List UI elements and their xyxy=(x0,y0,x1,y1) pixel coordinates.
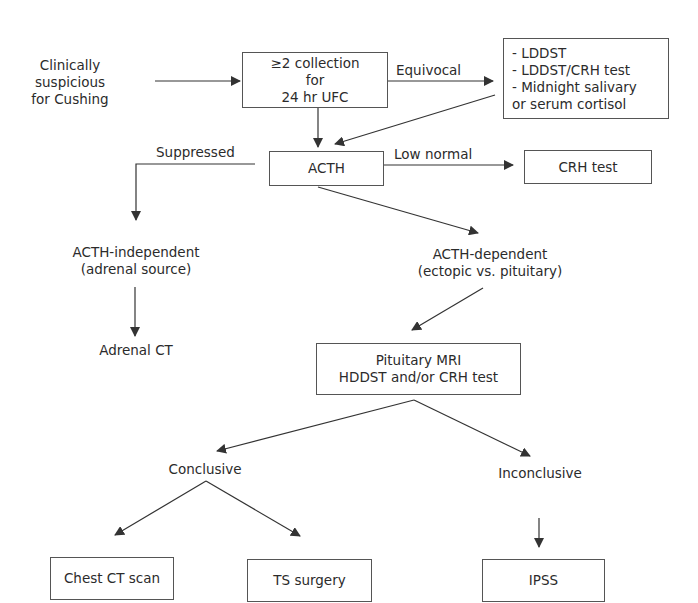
pituitary-line-1: Pituitary MRI xyxy=(376,352,462,369)
chest-ct-label: Chest CT scan xyxy=(64,570,160,587)
start-line-1: Clinically xyxy=(40,57,100,74)
pituitary-mri-box: Pituitary MRI HDDST and/or CRH test xyxy=(316,343,521,395)
ufc-line-1: ≥2 collection xyxy=(271,55,360,72)
acth-dependent-line-2: (ectopic vs. pituitary) xyxy=(418,263,562,280)
edge-label-low-normal: Low normal xyxy=(394,146,472,163)
arrow-conclusive-to-chest-ct xyxy=(115,481,206,535)
crh-test-box: CRH test xyxy=(524,150,652,184)
inconclusive-label: Inconclusive xyxy=(498,465,582,482)
start-line-3: for Cushing xyxy=(31,91,108,108)
conclusive: Conclusive xyxy=(155,459,255,479)
start-clinically-suspicious: Clinically suspicious for Cushing xyxy=(20,54,120,110)
conclusive-label: Conclusive xyxy=(168,461,241,478)
start-line-2: suspicious xyxy=(35,74,105,91)
adrenal-ct-label: Adrenal CT xyxy=(99,342,173,359)
arrow-dependent-to-pituitary xyxy=(412,288,483,330)
acth-independent-line-1: ACTH-independent xyxy=(72,244,199,261)
arrow-acth-to-independent xyxy=(136,164,255,220)
acth-box: ACTH xyxy=(269,151,384,186)
inconclusive: Inconclusive xyxy=(485,463,595,483)
edge-label-suppressed: Suppressed xyxy=(156,144,235,161)
chest-ct-scan-box: Chest CT scan xyxy=(50,557,174,600)
ts-surgery-box: TS surgery xyxy=(247,559,372,602)
crh-label: CRH test xyxy=(558,159,617,176)
acth-label: ACTH xyxy=(308,160,345,177)
cushing-diagnosis-flowchart: Clinically suspicious for Cushing ≥2 col… xyxy=(0,0,698,603)
ufc-line-3: 24 hr UFC xyxy=(282,89,349,106)
tests-line-1: - LDDST xyxy=(512,45,566,62)
adrenal-ct: Adrenal CT xyxy=(76,340,196,360)
tests-line-2: - LDDST/CRH test xyxy=(512,62,630,79)
ipss-box: IPSS xyxy=(482,559,605,602)
tests-line-3: - Midnight salivary xyxy=(512,79,637,96)
acth-dependent-line-1: ACTH-dependent xyxy=(433,246,548,263)
acth-dependent: ACTH-dependent (ectopic vs. pituitary) xyxy=(400,244,580,282)
ufc-collection-box: ≥2 collection for 24 hr UFC xyxy=(242,52,388,108)
arrow-acth-to-dependent xyxy=(318,187,478,233)
arrow-conclusive-to-ts-surgery xyxy=(206,481,300,536)
edge-label-equivocal: Equivocal xyxy=(396,62,461,79)
confirmatory-tests-box: - LDDST - LDDST/CRH test - Midnight sali… xyxy=(503,38,669,119)
tests-line-4: or serum cortisol xyxy=(512,96,626,113)
pituitary-line-2: HDDST and/or CRH test xyxy=(339,369,498,386)
ipss-label: IPSS xyxy=(529,572,558,589)
arrow-pituitary-to-inconclusive xyxy=(414,400,530,456)
acth-independent-line-2: (adrenal source) xyxy=(81,261,192,278)
acth-independent: ACTH-independent (adrenal source) xyxy=(56,242,216,280)
ufc-line-2: for xyxy=(306,72,325,89)
arrow-pituitary-to-conclusive xyxy=(217,400,414,451)
ts-surgery-label: TS surgery xyxy=(273,572,345,589)
